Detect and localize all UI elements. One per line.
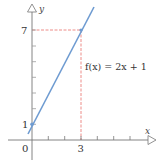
origin-label: 0 [22, 143, 28, 154]
y-axis-arrow-icon [28, 4, 37, 12]
y-tick-label-1: 1 [22, 119, 28, 130]
point-0-1 [30, 123, 34, 127]
function-graph: 7 1 0 3 x y f(x) = 2x + 1 [0, 0, 161, 164]
x-tick-label-3: 3 [78, 143, 84, 154]
y-axis-label: y [38, 4, 45, 14]
y-tick-label-7: 7 [21, 25, 27, 36]
function-annotation: f(x) = 2x + 1 [85, 61, 147, 72]
x-axis-label: x [145, 126, 150, 136]
point-3-7 [79, 28, 82, 31]
plot-area [32, 10, 152, 140]
